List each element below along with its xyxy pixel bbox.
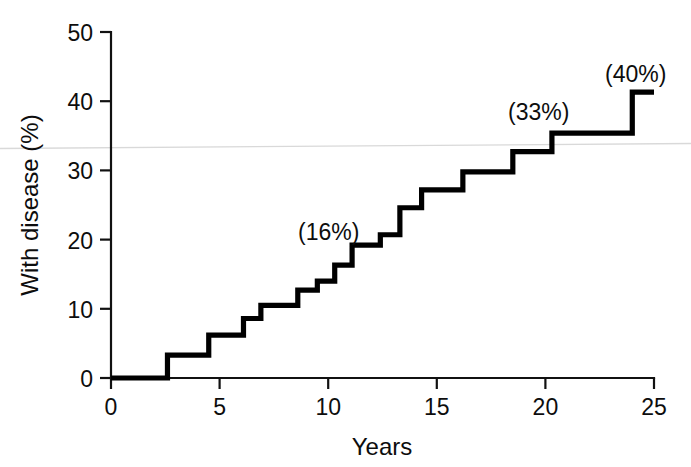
y-tick-label-0: 0 [80,366,93,392]
annotation-33-percent: (33%) [508,99,569,125]
x-tick-label-5: 5 [213,394,226,420]
x-axis-title: Years [352,433,413,460]
y-tick-label-40: 40 [67,89,93,115]
y-tick-label-30: 30 [67,158,93,184]
y-axis-group: 50 40 30 20 10 0 With disease (%) [16,20,111,392]
step-chart-svg: 50 40 30 20 10 0 With disease (%) 0 5 10… [0,0,691,467]
x-tick-label-15: 15 [424,394,450,420]
y-tick-label-50: 50 [67,20,93,46]
scan-artifact-line [0,144,691,149]
x-tick-label-0: 0 [105,394,118,420]
annotation-40-percent: (40%) [605,61,666,87]
x-axis-group: 0 5 10 15 20 25 Years [105,378,667,460]
y-tick-label-10: 10 [67,297,93,323]
x-tick-label-20: 20 [533,394,559,420]
x-tick-label-10: 10 [315,394,341,420]
y-axis-title: With disease (%) [16,114,43,295]
annotation-16-percent: (16%) [298,219,359,245]
y-tick-label-20: 20 [67,228,93,254]
chart-figure: 50 40 30 20 10 0 With disease (%) 0 5 10… [0,0,691,467]
x-tick-label-25: 25 [641,394,667,420]
cumulative-incidence-step-curve [111,92,654,378]
